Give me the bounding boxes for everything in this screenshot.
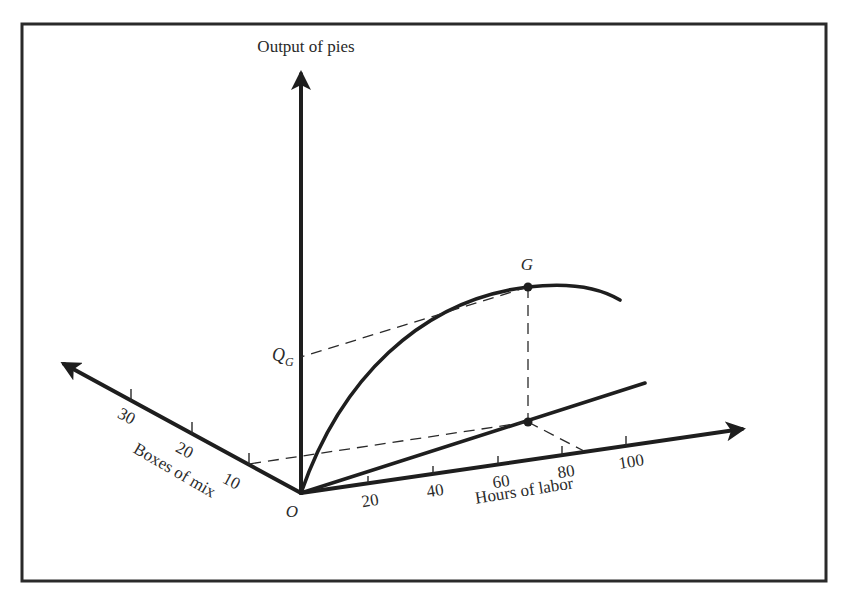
hours-tick-label-100: 100 <box>617 450 645 473</box>
point-G-label: G <box>521 255 533 274</box>
hours-tick-label-40: 40 <box>425 480 445 501</box>
diagram-canvas: Output of pies 10 20 30 Boxes of mix 20 … <box>0 0 842 596</box>
production-diagram: Output of pies 10 20 30 Boxes of mix 20 … <box>0 0 842 596</box>
origin-label: O <box>286 502 298 521</box>
qg-label: QG <box>272 345 294 369</box>
projection-G-to-QG <box>301 287 528 357</box>
hours-tick-label-20: 20 <box>360 490 380 511</box>
boxes-tick-label-30: 30 <box>115 404 139 429</box>
projection-to-boxes-axis <box>249 422 528 464</box>
input-ray <box>301 383 645 493</box>
point-G <box>524 283 533 292</box>
point-G-base <box>524 418 533 427</box>
figure-frame <box>22 24 826 581</box>
boxes-tick-label-10: 10 <box>220 469 244 494</box>
qg-label-main: Q <box>272 345 285 365</box>
output-axis-label: Output of pies <box>257 37 354 56</box>
qg-label-sub: G <box>285 355 294 369</box>
boxes-tick-label-20: 20 <box>173 438 197 463</box>
projection-to-hours-axis <box>528 422 584 451</box>
hours-axis-label: Hours of labor <box>474 473 575 507</box>
